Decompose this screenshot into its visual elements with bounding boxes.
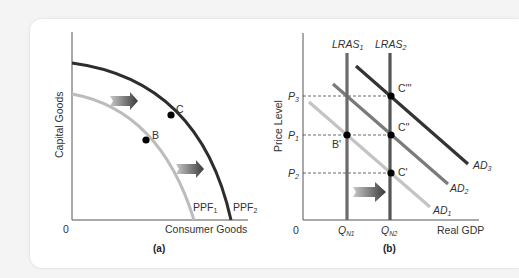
point-c-double-prime-label: C'' bbox=[398, 121, 410, 133]
shift-arrow-icon bbox=[353, 182, 386, 202]
point-b-prime bbox=[343, 131, 350, 138]
point-b-prime-label: B' bbox=[332, 138, 341, 150]
caption-a: (a) bbox=[153, 243, 165, 254]
point-b-label: B bbox=[152, 129, 159, 141]
lras1-label: LRAS1 bbox=[332, 38, 363, 51]
p3-label: P3 bbox=[288, 90, 299, 103]
ad2-label: AD2 bbox=[449, 182, 469, 195]
qn2-label: QN2 bbox=[381, 224, 398, 237]
qn1-label: QN1 bbox=[338, 224, 355, 237]
point-c-double-prime bbox=[387, 131, 394, 138]
p2-label: P2 bbox=[288, 167, 299, 180]
y-axis-label: Capital Goods bbox=[53, 91, 65, 158]
ad3-label: AD3 bbox=[472, 159, 492, 172]
origin-label: 0 bbox=[63, 223, 69, 235]
panel-b: C''' C'' B' C' LRAS1 LRAS2 AD3 AD2 AD1 P… bbox=[272, 33, 492, 254]
p1-label: P1 bbox=[288, 129, 299, 142]
point-c bbox=[167, 111, 174, 118]
panel-a: C B PPF1 PPF2 0 Consumer Goods Capital G… bbox=[53, 32, 257, 254]
origin-label: 0 bbox=[293, 224, 299, 236]
x-axis-label: Consumer Goods bbox=[165, 223, 247, 235]
point-b bbox=[142, 136, 149, 143]
point-c-triple-prime-label: C''' bbox=[398, 82, 412, 94]
ppf2-curve bbox=[72, 63, 231, 220]
point-c-triple-prime bbox=[387, 92, 394, 99]
caption-b: (b) bbox=[383, 243, 396, 254]
lras2-label: LRAS2 bbox=[375, 38, 406, 51]
point-c-prime bbox=[387, 169, 394, 176]
y-axis-label: Price Level bbox=[272, 100, 284, 152]
ad1-label: AD1 bbox=[432, 204, 452, 217]
x-axis-label: Real GDP bbox=[437, 224, 484, 236]
point-c-label: C bbox=[176, 103, 184, 115]
ad3-curve bbox=[356, 66, 468, 164]
point-c-prime-label: C' bbox=[398, 166, 408, 178]
ppf1-label: PPF1 bbox=[193, 201, 217, 214]
figure-canvas: C B PPF1 PPF2 0 Consumer Goods Capital G… bbox=[0, 0, 519, 278]
ppf2-label: PPF2 bbox=[233, 201, 257, 214]
shift-arrow-icon bbox=[176, 160, 204, 178]
